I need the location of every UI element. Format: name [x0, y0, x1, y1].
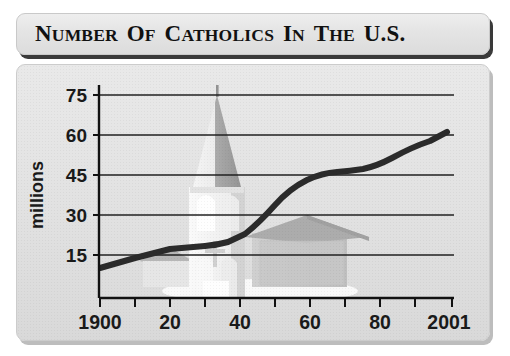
y-tick-label-15: 15 [66, 245, 88, 266]
chart-panel: 75 60 45 30 15 millions 1900 20 40 60 80… [16, 64, 490, 341]
church-watermark [139, 71, 369, 305]
y-axis-title: millions [27, 161, 47, 229]
x-tick-label-1980: 80 [369, 311, 391, 333]
title-word: U.S. [364, 22, 406, 46]
x-tick-label-2001: 2001 [427, 311, 471, 333]
title-word: Catholics [165, 22, 275, 46]
y-tick-label-60: 60 [66, 125, 87, 146]
x-tick-labels: 1900 20 40 60 80 2001 [78, 311, 471, 333]
chart-figure: Number Of Catholics In The U.S. [0, 0, 510, 356]
y-tick-labels: 75 60 45 30 15 [66, 85, 88, 266]
chart-title-bar: Number Of Catholics In The U.S. [16, 13, 490, 55]
x-tick-label-1920: 20 [159, 311, 181, 333]
title-word: Of [127, 22, 156, 46]
title-word: In [283, 22, 305, 46]
steeple-cross-icon [210, 71, 225, 97]
x-tick-label-1960: 60 [299, 311, 321, 333]
y-tick-label-45: 45 [66, 165, 88, 186]
y-tick-label-30: 30 [66, 205, 87, 226]
chart-title: Number Of Catholics In The U.S. [17, 21, 405, 47]
x-ticks [100, 298, 452, 307]
title-word: Number [35, 22, 118, 46]
title-word: The [314, 22, 355, 46]
x-tick-label-1900: 1900 [78, 311, 122, 333]
x-tick-label-1940: 40 [229, 311, 251, 333]
y-tick-label-75: 75 [66, 85, 88, 106]
plot-area: 75 60 45 30 15 millions 1900 20 40 60 80… [17, 65, 490, 341]
